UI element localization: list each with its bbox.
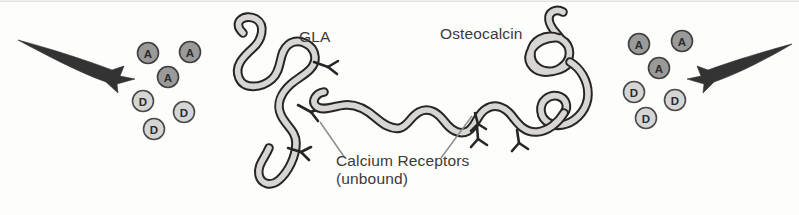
- circle-d: D: [636, 108, 657, 129]
- gla-label: GLA: [299, 28, 330, 46]
- circle-d: D: [133, 91, 154, 112]
- circle-a: A: [158, 67, 179, 88]
- right-arrow: [687, 44, 792, 93]
- svg-text:D: D: [139, 96, 147, 108]
- calcium-receptor-stub: [314, 61, 338, 74]
- circle-a: A: [629, 34, 650, 55]
- circle-a: A: [180, 42, 201, 63]
- calcium-receptors-line1: Calcium Receptors: [336, 152, 469, 169]
- svg-text:D: D: [671, 95, 679, 107]
- left-molecule-cluster: A A A D D D: [133, 42, 201, 140]
- circle-d: D: [144, 119, 165, 140]
- osteocalcin-label: Osteocalcin: [440, 25, 523, 43]
- circle-a: A: [649, 58, 670, 79]
- svg-text:A: A: [186, 47, 194, 59]
- circle-d: D: [624, 82, 645, 103]
- left-arrow: [18, 40, 135, 93]
- calcium-receptors-line2: (unbound): [336, 170, 469, 188]
- svg-text:A: A: [678, 36, 686, 48]
- calcium-receptors-label: Calcium Receptors (unbound): [336, 152, 469, 189]
- svg-text:A: A: [144, 48, 152, 60]
- circle-d: D: [665, 90, 686, 111]
- svg-text:D: D: [642, 113, 650, 125]
- circle-a: A: [138, 43, 159, 64]
- svg-text:A: A: [635, 39, 643, 51]
- svg-text:A: A: [655, 63, 663, 75]
- circle-d: D: [174, 102, 195, 123]
- svg-text:D: D: [630, 87, 638, 99]
- svg-text:D: D: [180, 107, 188, 119]
- right-molecule-cluster: A A A D D D: [624, 31, 693, 129]
- svg-text:D: D: [150, 124, 158, 136]
- diagram-canvas: .ribbon { fill: #d8d6d2; stroke: #262626…: [0, 0, 799, 215]
- svg-text:A: A: [164, 72, 172, 84]
- circle-a: A: [672, 31, 693, 52]
